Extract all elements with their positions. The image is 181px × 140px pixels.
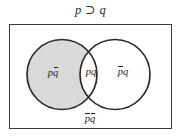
venn-diagram-figure: p ⊃ q pq pq pq pq — [0, 0, 181, 140]
term-q: q — [91, 66, 96, 77]
term-q: q — [123, 66, 128, 77]
page-title: p ⊃ q — [0, 2, 181, 18]
term-not-p: p — [118, 65, 123, 78]
term-not-q: q — [90, 112, 95, 125]
region-label-p-not-q: pq — [36, 66, 70, 79]
region-label-p-and-q: pq — [80, 66, 102, 78]
term-not-q: q — [53, 66, 58, 79]
region-label-not-p-q: pq — [108, 65, 138, 78]
region-label-not-p-not-q: pq — [70, 112, 110, 125]
